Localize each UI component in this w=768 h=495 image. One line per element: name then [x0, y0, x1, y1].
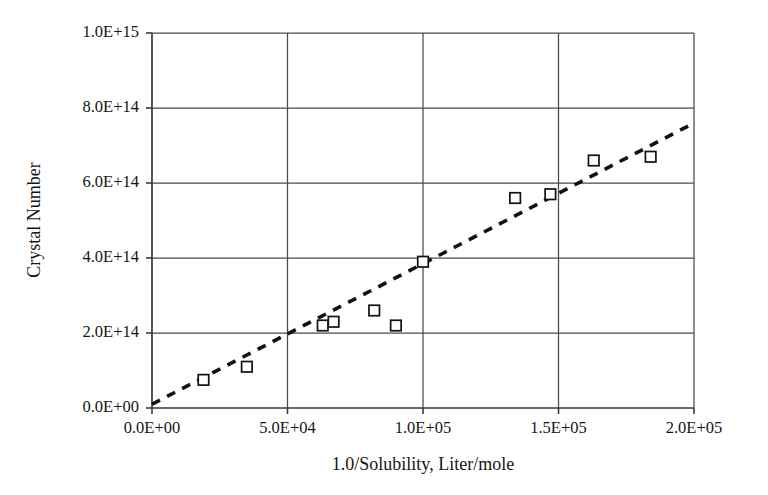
x-tick-label: 2.0E+05 [666, 418, 723, 437]
x-tick-label: 0.0E+00 [124, 418, 181, 437]
gridlines [152, 33, 694, 408]
data-point-marker [588, 155, 599, 166]
scatter-plot: 0.0E+002.0E+144.0E+146.0E+148.0E+141.0E+… [0, 0, 768, 495]
data-point-marker [369, 305, 380, 316]
y-tick-label: 1.0E+15 [82, 22, 139, 41]
x-tick-label: 1.5E+05 [530, 418, 587, 437]
y-axis-title: Crystal Number [24, 162, 44, 277]
data-point-marker [328, 317, 339, 328]
data-point-marker [198, 375, 209, 386]
y-tick-label: 6.0E+14 [82, 172, 139, 191]
y-axis-tick-labels: 0.0E+002.0E+144.0E+146.0E+148.0E+141.0E+… [82, 22, 139, 416]
x-axis-title: 1.0/Solubility, Liter/mole [332, 454, 514, 474]
y-tick-label: 2.0E+14 [82, 322, 139, 341]
data-point-marker [510, 193, 521, 204]
data-point-marker [317, 320, 328, 331]
data-points [198, 152, 656, 386]
data-point-marker [391, 320, 402, 331]
x-axis-tick-labels: 0.0E+005.0E+041.0E+051.5E+052.0E+05 [124, 418, 723, 437]
x-tick-label: 5.0E+04 [259, 418, 316, 437]
data-point-marker [242, 362, 253, 373]
chart-container: 0.0E+002.0E+144.0E+146.0E+148.0E+141.0E+… [0, 0, 768, 495]
y-tick-label: 4.0E+14 [82, 247, 139, 266]
data-point-marker [418, 257, 429, 268]
data-point-marker [545, 189, 556, 200]
y-tick-label: 0.0E+00 [82, 397, 139, 416]
tick-marks [146, 33, 694, 414]
x-tick-label: 1.0E+05 [395, 418, 452, 437]
y-tick-label: 8.0E+14 [82, 97, 139, 116]
data-point-marker [645, 152, 656, 163]
